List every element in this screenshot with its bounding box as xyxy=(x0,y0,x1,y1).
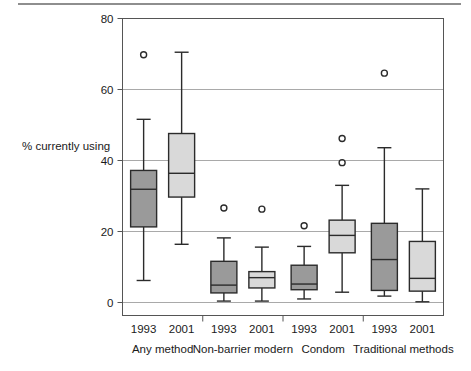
box-body xyxy=(249,272,275,288)
y-tick-label: 80 xyxy=(101,13,114,25)
x-tick-label-2001: 2001 xyxy=(249,323,275,335)
box-plot-any-method-2001 xyxy=(169,52,195,244)
box-body xyxy=(131,170,157,226)
box-plot-non-barrier-modern-2001 xyxy=(249,206,275,301)
y-tick-label: 40 xyxy=(101,155,114,167)
outlier-point xyxy=(141,52,147,58)
y-axis-title: % currently using xyxy=(22,140,110,152)
outlier-point xyxy=(339,135,345,141)
x-tick-label-1993: 1993 xyxy=(291,323,317,335)
group-label-non-barrier-modern: Non-barrier modern xyxy=(193,343,293,355)
box-plot-condom-1993 xyxy=(291,223,317,299)
x-tick-label-2001: 2001 xyxy=(329,323,355,335)
box-plot-condom-2001 xyxy=(329,135,355,292)
top-divider-rule xyxy=(18,3,461,5)
box-plot-figure: 020406080% currently using19932001Any me… xyxy=(0,0,471,371)
x-tick-label-2001: 2001 xyxy=(410,323,436,335)
y-tick-label: 0 xyxy=(107,297,113,309)
box-body xyxy=(371,223,397,290)
x-tick-label-1993: 1993 xyxy=(131,323,157,335)
box-plot-any-method-1993 xyxy=(131,52,157,281)
y-tick-label: 20 xyxy=(101,226,114,238)
group-label-traditional-methods: Traditional methods xyxy=(353,343,454,355)
box-plot-traditional-methods-2001 xyxy=(409,189,435,302)
box-body xyxy=(169,134,195,198)
box-body xyxy=(291,265,317,289)
box-body xyxy=(329,220,355,253)
y-tick-label: 60 xyxy=(101,84,114,96)
outlier-point xyxy=(301,223,307,229)
box-plot-traditional-methods-1993 xyxy=(371,70,397,296)
chart-canvas: 020406080% currently using19932001Any me… xyxy=(0,0,471,371)
x-tick-label-1993: 1993 xyxy=(372,323,398,335)
outlier-point xyxy=(259,206,265,212)
x-tick-label-2001: 2001 xyxy=(169,323,195,335)
outlier-point xyxy=(221,205,227,211)
group-label-condom: Condom xyxy=(301,343,344,355)
box-body xyxy=(211,261,237,293)
box-plot-non-barrier-modern-1993 xyxy=(211,205,237,301)
x-tick-label-1993: 1993 xyxy=(211,323,237,335)
group-label-any-method: Any method xyxy=(132,343,193,355)
box-body xyxy=(409,241,435,291)
x-axis: 19932001Any method19932001Non-barrier mo… xyxy=(131,316,454,355)
y-axis: 020406080 xyxy=(101,13,123,309)
outlier-point xyxy=(381,70,387,76)
